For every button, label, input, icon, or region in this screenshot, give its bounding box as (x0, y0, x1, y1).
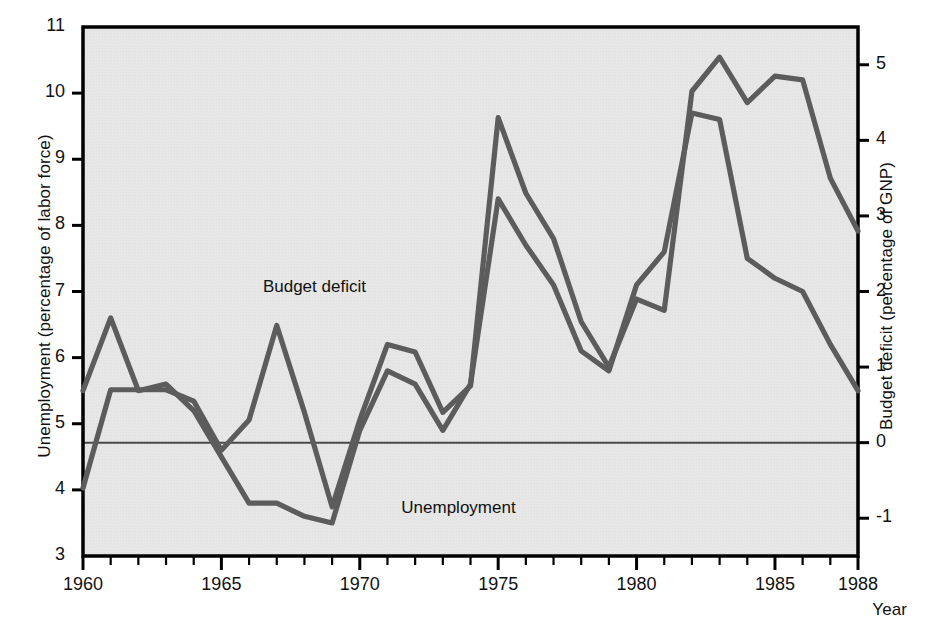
x-axis-tick-label: 1985 (745, 574, 805, 595)
plot-canvas (0, 0, 925, 635)
y-axis-right-tick-label: -1 (876, 506, 910, 527)
y-axis-left-tick-label: 6 (31, 346, 65, 367)
y-axis-left-tick-label: 5 (31, 412, 65, 433)
series-label-budget-deficit: Budget deficit (263, 277, 366, 297)
x-axis-tick-label: 1960 (53, 574, 113, 595)
y-axis-left-tick-label: 3 (31, 544, 65, 565)
chart-figure: Unemployment (percentage of labor force)… (0, 0, 925, 635)
y-axis-left-tick-label: 10 (31, 81, 65, 102)
y-axis-right-tick-label: 2 (876, 280, 910, 301)
y-axis-right-tick-label: 3 (876, 204, 910, 225)
y-axis-left-tick-label: 4 (31, 478, 65, 499)
x-axis-tick-label: 1975 (468, 574, 528, 595)
y-axis-left-tick-label: 11 (31, 15, 65, 36)
x-axis-title: Year (872, 600, 907, 620)
y-axis-right-tick-label: 0 (876, 431, 910, 452)
y-axis-left-tick-label: 8 (31, 213, 65, 234)
x-axis-tick-label: 1970 (330, 574, 390, 595)
plot-background-texture (83, 27, 858, 556)
series-label-unemployment: Unemployment (401, 498, 515, 518)
y-axis-left-tick-label: 7 (31, 280, 65, 301)
y-axis-left-tick-label: 9 (31, 147, 65, 168)
x-axis-tick-label: 1980 (607, 574, 667, 595)
y-axis-right-tick-label: 4 (876, 128, 910, 149)
x-axis-tick-label: 1988 (828, 574, 888, 595)
x-axis-tick-label: 1965 (191, 574, 251, 595)
y-axis-right-tick-label: 1 (876, 355, 910, 376)
y-axis-right-tick-label: 5 (876, 53, 910, 74)
